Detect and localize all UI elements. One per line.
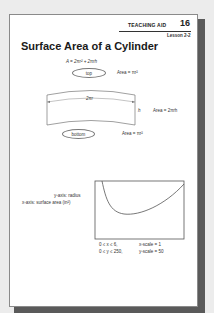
window-x-range: 0 ≤ x ≤ 6, [99, 242, 117, 247]
window-x-scale: x-scale = 1 [139, 242, 161, 247]
window-y-range: 0 ≤ y ≤ 250, [99, 249, 122, 254]
graph-window [0, 0, 214, 313]
window-y-scale: y-scale = 50 [139, 249, 163, 254]
